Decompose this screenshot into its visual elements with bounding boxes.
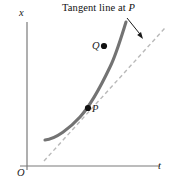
origin-label: O bbox=[17, 168, 25, 179]
annotation-arrow-head bbox=[137, 32, 143, 39]
axis-label-x: x bbox=[19, 8, 24, 19]
position-time-curve bbox=[45, 22, 126, 140]
point-label-q: Q bbox=[92, 41, 100, 52]
point-label-p: P bbox=[92, 104, 98, 115]
tangent-line-annotation: Tangent line at P bbox=[62, 3, 135, 14]
annotation-arrow-shaft bbox=[127, 18, 142, 36]
tangent-line-figure: Tangent line at P x t O P Q bbox=[0, 0, 174, 191]
point-q-dot bbox=[101, 43, 107, 49]
annotation-prefix: Tangent line at bbox=[62, 2, 128, 13]
axis-label-t: t bbox=[158, 161, 161, 172]
point-p-dot bbox=[85, 105, 91, 111]
figure-canvas bbox=[0, 0, 174, 191]
annotation-variable: P bbox=[128, 2, 135, 13]
